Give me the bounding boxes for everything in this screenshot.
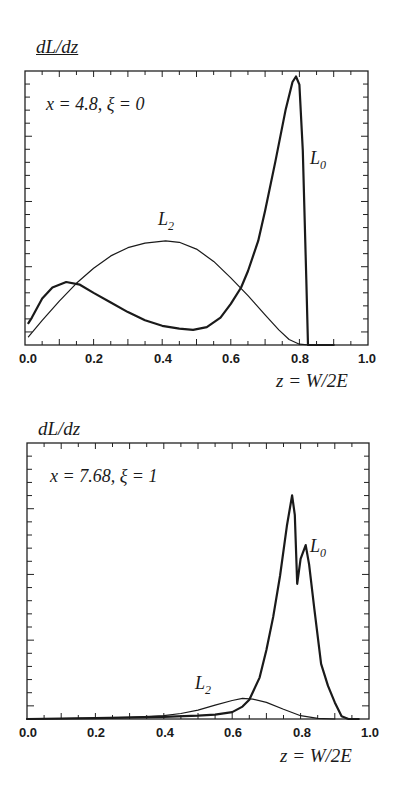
x-tick-label: 1.0	[361, 725, 379, 740]
x-tick-label: 0.8	[291, 351, 309, 366]
curve-label-L0: L0	[310, 148, 326, 173]
series-line-L0	[28, 77, 333, 346]
x-tick-label: 0.8	[293, 725, 311, 740]
x-tick-label: 0.4	[156, 725, 174, 740]
curve-label-L2-main: L	[158, 209, 168, 229]
x-tick-label: 0.2	[87, 725, 105, 740]
curve-label-L0-main: L	[310, 148, 320, 168]
x-tick-label: 0.6	[224, 725, 242, 740]
parameter-annotation: x = 7.68, ξ = 1	[50, 466, 158, 487]
series-line-L2	[28, 241, 309, 345]
curve-label-L0: L0	[310, 536, 326, 561]
y-axis-label: dL/dz	[38, 418, 80, 440]
x-tick-label: 0.2	[85, 351, 103, 366]
x-tick-label: 0.0	[19, 351, 37, 366]
x-tick-label: 0.6	[222, 351, 240, 366]
x-tick-label: 1.0	[358, 351, 376, 366]
curve-label-L2: L2	[195, 673, 211, 698]
curve-label-L2: L2	[158, 209, 174, 234]
x-tick-label: 0.0	[19, 725, 37, 740]
curve-label-L2-sub: 2	[168, 219, 174, 233]
x-tick-label: 0.4	[154, 351, 172, 366]
curve-label-L0-sub: 0	[320, 158, 326, 172]
parameter-annotation: x = 4.8, ξ = 0	[46, 94, 145, 115]
x-axis-label: z = W/2E	[280, 745, 352, 767]
series-line-L0	[27, 495, 359, 719]
curve-label-L2-main: L	[195, 673, 205, 693]
curve-label-L0-main: L	[310, 536, 320, 556]
curve-label-L2-sub: 2	[205, 683, 211, 697]
x-axis-label: z = W/2E	[276, 370, 348, 392]
curve-label-L0-sub: 0	[320, 546, 326, 560]
y-axis-label: dL/dz	[36, 36, 78, 58]
